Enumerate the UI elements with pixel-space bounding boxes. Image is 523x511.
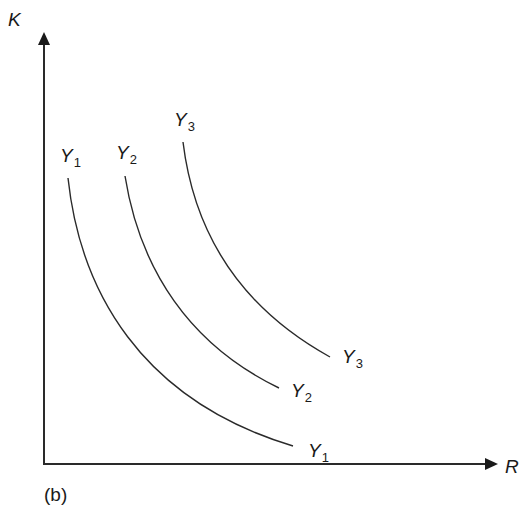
isoquant-y1 (68, 178, 293, 446)
curve-label-y3-top: Y3 (174, 110, 195, 133)
panel-label: (b) (44, 484, 67, 506)
isoquant-diagram (0, 0, 523, 511)
y-axis-arrow-icon (38, 32, 50, 45)
isoquant-y3 (183, 142, 330, 357)
x-axis-arrow-icon (485, 458, 498, 470)
x-axis-label: R (505, 457, 519, 476)
isoquant-y2 (125, 176, 279, 388)
y-axis-label: K (8, 10, 21, 29)
curve-label-y2-end: Y2 (291, 381, 312, 404)
curve-label-y1-top: Y1 (60, 146, 81, 169)
curve-label-y3-end: Y3 (342, 347, 363, 370)
curve-label-y2-top: Y2 (116, 143, 137, 166)
curve-label-y1-end: Y1 (308, 441, 329, 464)
